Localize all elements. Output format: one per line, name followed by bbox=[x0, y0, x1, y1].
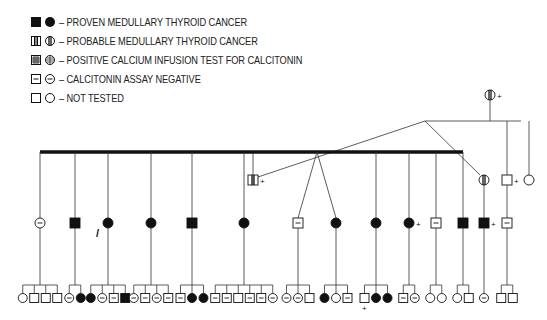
gen4-individual bbox=[41, 294, 50, 303]
gen3-individual bbox=[404, 218, 414, 228]
gen4-individual bbox=[121, 294, 130, 303]
gen4-individual bbox=[372, 294, 381, 303]
gen4-individual bbox=[30, 294, 39, 303]
pedigree-chart: +++/+++ bbox=[0, 0, 547, 320]
gen4-individual bbox=[480, 294, 489, 303]
gen3-individual bbox=[103, 218, 113, 228]
gen4-individual bbox=[18, 294, 27, 303]
gen2-individual bbox=[502, 175, 512, 185]
gen3-individual bbox=[502, 218, 512, 228]
pedigree-line bbox=[317, 152, 336, 218]
gen3-individual bbox=[458, 218, 468, 228]
gen4-individual bbox=[129, 294, 138, 303]
gen4-individual bbox=[320, 294, 329, 303]
deceased-mark: + bbox=[514, 177, 519, 186]
gen4-individual bbox=[141, 294, 150, 303]
gen3-individual bbox=[371, 218, 381, 228]
proband-arrow-icon: / bbox=[96, 227, 99, 239]
gen4-individual bbox=[152, 294, 161, 303]
gen4-individual bbox=[234, 294, 243, 303]
gen3-individual bbox=[35, 218, 45, 228]
gen3-individual bbox=[187, 218, 197, 228]
gen4-individual bbox=[360, 294, 369, 303]
gen4-individual bbox=[199, 294, 208, 303]
gen1-individual bbox=[485, 90, 495, 100]
gen4-individual bbox=[98, 294, 107, 303]
gen4-individual bbox=[343, 294, 352, 303]
gen3-individual bbox=[331, 218, 341, 228]
gen2-individual bbox=[524, 175, 534, 185]
gen4-individual bbox=[76, 294, 85, 303]
gen4-individual bbox=[245, 294, 254, 303]
gen2-individual bbox=[479, 175, 489, 185]
gen4-individual bbox=[399, 294, 408, 303]
gen4-individual bbox=[426, 294, 435, 303]
gen3-individual bbox=[431, 218, 441, 228]
gen4-individual bbox=[282, 294, 291, 303]
gen4-individual bbox=[497, 294, 506, 303]
gen4-individual bbox=[222, 294, 231, 303]
gen3-individual bbox=[479, 218, 489, 228]
deceased-mark: + bbox=[362, 304, 367, 313]
gen4-individual bbox=[176, 294, 185, 303]
gen4-individual bbox=[410, 294, 419, 303]
deceased-mark: + bbox=[416, 220, 421, 229]
gen4-individual bbox=[65, 294, 74, 303]
gen4-individual bbox=[453, 294, 462, 303]
gen3-individual bbox=[293, 218, 303, 228]
gen4-individual bbox=[257, 294, 266, 303]
gen3-individual bbox=[70, 218, 80, 228]
deceased-mark: + bbox=[260, 177, 265, 186]
gen4-individual bbox=[383, 294, 392, 303]
deceased-mark: + bbox=[497, 92, 502, 101]
gen4-individual bbox=[508, 294, 517, 303]
gen4-individual bbox=[211, 294, 220, 303]
gen4-individual bbox=[332, 294, 341, 303]
gen4-individual bbox=[164, 294, 173, 303]
pedigree-line bbox=[258, 121, 425, 177]
pedigree-line bbox=[425, 121, 480, 175]
gen3-individual bbox=[146, 218, 156, 228]
gen4-individual bbox=[268, 294, 277, 303]
gen4-individual bbox=[437, 294, 446, 303]
gen4-individual bbox=[305, 294, 314, 303]
gen4-individual bbox=[464, 294, 473, 303]
pedigree-line bbox=[298, 152, 317, 218]
gen4-individual bbox=[53, 294, 62, 303]
gen4-individual bbox=[294, 294, 303, 303]
gen4-individual bbox=[109, 294, 118, 303]
gen3-individual bbox=[239, 218, 249, 228]
gen4-individual bbox=[188, 294, 197, 303]
gen4-individual bbox=[86, 294, 95, 303]
deceased-mark: + bbox=[491, 220, 496, 229]
